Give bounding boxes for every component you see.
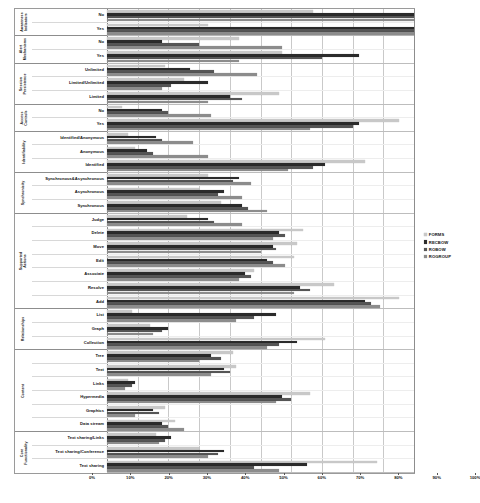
category-label-text: Anonymous bbox=[80, 150, 104, 155]
category-label-text: Judge bbox=[92, 218, 104, 223]
dimension-label-text: Identifiability bbox=[21, 140, 25, 163]
table-row bbox=[107, 282, 414, 296]
category-label-text: Synchronous&Asynchronous bbox=[45, 177, 104, 182]
bar-rogroup bbox=[107, 196, 242, 199]
dimension-label-identifiability: Identifiability bbox=[15, 132, 32, 173]
category-label-links: Links bbox=[32, 377, 107, 391]
dimension-label-text: SupportedActions bbox=[19, 252, 27, 271]
category-label-data-stream: Data stream bbox=[32, 418, 107, 432]
category-label-text: Resolve bbox=[88, 286, 104, 291]
table-row bbox=[107, 9, 414, 23]
category-label-list: List bbox=[32, 309, 107, 323]
category-label-text: Text bbox=[32, 364, 107, 378]
bar-rogroup bbox=[107, 155, 208, 158]
category-label-text: Links bbox=[93, 382, 104, 387]
bar-rogroup bbox=[107, 319, 236, 322]
table-row bbox=[107, 391, 414, 405]
dimension-label-awareness: AwarenessIndicators bbox=[15, 9, 32, 36]
legend-item-recbow: RECBOW bbox=[424, 238, 451, 245]
dimension-label-text: CoreFunctionality bbox=[19, 441, 27, 464]
category-label-limited: Limited bbox=[32, 91, 107, 105]
category-label-hypermedia: Hypermedia bbox=[32, 391, 107, 405]
category-label-add: Add bbox=[32, 296, 107, 310]
dimension-label-text: AccessControls bbox=[19, 110, 27, 125]
x-tick-label-50: 50% bbox=[279, 475, 287, 480]
table-row bbox=[107, 459, 414, 473]
x-tick-label-30: 30% bbox=[203, 475, 211, 480]
bar-rogroup bbox=[107, 60, 239, 63]
bar-rogroup bbox=[107, 346, 267, 349]
category-label-text: No bbox=[98, 13, 104, 18]
bar-rogroup bbox=[107, 264, 285, 267]
category-label-text: Synchronous bbox=[77, 204, 104, 209]
bar-rogroup bbox=[107, 32, 414, 35]
table-row bbox=[107, 418, 414, 432]
x-tick-label-70: 70% bbox=[356, 475, 364, 480]
x-tick-label-10: 10% bbox=[126, 475, 134, 480]
table-row bbox=[107, 118, 414, 132]
category-label-graphics: Graphics bbox=[32, 405, 107, 419]
table-row bbox=[107, 64, 414, 78]
bar-rogroup bbox=[107, 305, 380, 308]
category-label-text: Identified bbox=[85, 163, 104, 168]
table-row bbox=[107, 173, 414, 187]
category-label-text: Identified/Anonymous bbox=[60, 136, 104, 141]
dimension-label-text: Relationships bbox=[21, 317, 25, 342]
bar-rogroup bbox=[107, 182, 251, 185]
table-row bbox=[107, 105, 414, 119]
table-row bbox=[107, 405, 414, 419]
dimension-label-access: AccessControls bbox=[15, 105, 32, 132]
bar-rogroup bbox=[107, 141, 193, 144]
category-label-text: Asynchronous bbox=[75, 190, 104, 195]
table-row bbox=[107, 77, 414, 91]
table-row bbox=[107, 36, 414, 50]
category-label-text-sharing-conference: Text sharing/Conference bbox=[32, 446, 107, 460]
table-row bbox=[107, 227, 414, 241]
legend-item-forms: FORMS bbox=[424, 231, 451, 238]
category-label-text: Text sharing/Conference bbox=[55, 450, 104, 455]
dimension-label-text: SessionPersistence bbox=[19, 73, 27, 94]
category-label-text: List bbox=[97, 313, 104, 318]
category-label-text: Associate bbox=[84, 272, 104, 277]
legend-item-robow: ROBOW bbox=[424, 246, 451, 253]
table-row bbox=[107, 23, 414, 37]
bar-rogroup bbox=[107, 428, 184, 431]
category-label-synchronous: Synchronous bbox=[32, 200, 107, 214]
table-row bbox=[107, 446, 414, 460]
table-row bbox=[107, 132, 414, 146]
table-row bbox=[107, 350, 414, 364]
bar-rogroup bbox=[107, 223, 242, 226]
dimension-label-content: Content bbox=[15, 350, 32, 432]
category-label-tree: Tree bbox=[32, 350, 107, 364]
category-label-text: Move bbox=[93, 245, 104, 250]
category-label-text-sharing-links: Text sharing/Links bbox=[32, 432, 107, 446]
table-row bbox=[107, 186, 414, 200]
category-label-identified: Identified bbox=[32, 159, 107, 173]
category-label-judge: Judge bbox=[32, 214, 107, 228]
dimension-label-relationships: Relationships bbox=[15, 309, 32, 350]
category-label-delete: Delete bbox=[32, 227, 107, 241]
category-label-text: Unlimited bbox=[85, 68, 104, 73]
dimension-label-session: SessionPersistence bbox=[15, 64, 32, 105]
category-label-yes: Yes bbox=[32, 50, 107, 64]
category-label-text: Yes bbox=[97, 122, 104, 127]
bar-rogroup bbox=[107, 210, 267, 213]
category-label-identified-anonymous: Identified/Anonymous bbox=[32, 132, 107, 146]
category-label-text: Yes bbox=[97, 54, 104, 59]
category-label-no: No bbox=[32, 9, 107, 23]
dimension-label-synchronicity: Synchronicity bbox=[15, 173, 32, 214]
dimension-label-supported: SupportedActions bbox=[15, 214, 32, 310]
table-row bbox=[107, 145, 414, 159]
legend-label: ROGROUP bbox=[429, 254, 451, 259]
category-label-yes: Yes bbox=[32, 23, 107, 37]
category-label-text: Graph bbox=[92, 327, 104, 332]
legend-swatch bbox=[424, 233, 427, 236]
chart-legend: FORMSRECBOWROBOWROGROUP bbox=[424, 231, 451, 261]
dimension-label-text: Synchronicity bbox=[22, 180, 26, 205]
legend-swatch bbox=[424, 248, 427, 251]
table-row bbox=[107, 323, 414, 337]
category-label-text: Text sharing bbox=[79, 464, 104, 469]
category-label-text: Add bbox=[96, 300, 104, 305]
category-label-text: Limited bbox=[89, 95, 104, 100]
